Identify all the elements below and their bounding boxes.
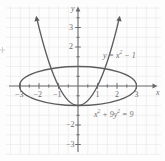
page-edge-artifact [0,47,5,53]
x-tick-label--2: −2 [34,91,43,99]
parabola-label-head: y = x [103,51,120,60]
ellipse-equation-label: x2 + 9y2 = 9 [94,111,133,119]
ellipse-label-tail: = 9 [120,110,133,119]
x-tick-label--1: −1 [53,91,62,99]
axes [9,7,158,153]
coordinate-plane [0,0,165,161]
y-axis-arrowhead [76,7,81,12]
y-axis-label: y [71,5,75,13]
y-tick-label-3: 3 [69,24,73,32]
ellipse-label-mid: + 9y [100,110,117,119]
x-tick-label-3: 3 [135,91,139,99]
graph-figure: −3 −2 −1 1 2 3 3 2 −2 −3 y x y = x2 − 1 … [0,0,165,161]
parabola-equation-label: y = x2 − 1 [103,52,136,60]
y-tick-label--2: −2 [66,121,75,129]
parabola-label-tail: − 1 [122,51,135,60]
x-axis-label: x [156,89,160,97]
x-tick-label--3: −3 [15,91,24,99]
grid-lines [6,6,161,155]
y-tick-label-2: 2 [69,43,73,51]
x-tick-label-2: 2 [115,91,119,99]
y-tick-label--3: −3 [66,141,75,149]
x-tick-label-1: 1 [96,91,100,99]
